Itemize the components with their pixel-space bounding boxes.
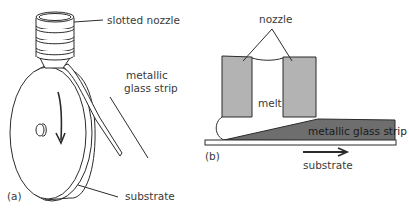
melt-puddle — [216, 117, 224, 140]
slotted-nozzle — [36, 12, 74, 68]
label-substrate-a: substrate — [125, 190, 175, 202]
label-strip-a-line1: metallic — [126, 69, 168, 81]
panel-tag-b: (b) — [205, 150, 220, 162]
nozzle-wall-left — [222, 56, 252, 117]
label-substrate-b: substrate — [303, 159, 353, 171]
hub-icon — [36, 124, 44, 136]
leader-substrate-a — [78, 185, 118, 197]
nozzle-wall-right — [283, 57, 316, 117]
panel-a — [10, 12, 148, 201]
label-slotted-nozzle: slotted nozzle — [107, 14, 180, 26]
panel-tag-a: (a) — [7, 190, 22, 202]
leader-slotted-nozzle — [74, 20, 103, 22]
label-strip-a-line2: glass strip — [124, 82, 178, 94]
label-melt: melt — [258, 97, 282, 109]
label-strip-b: metallic glass strip — [308, 125, 407, 137]
label-nozzle: nozzle — [259, 13, 292, 25]
melt-spinning-diagram: slotted nozzle metallic glass strip subs… — [0, 0, 409, 215]
substrate-b — [205, 140, 396, 145]
